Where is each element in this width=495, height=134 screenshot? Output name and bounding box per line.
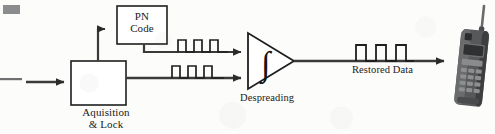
restored-data-waveform [356,45,414,61]
acquisition-label-line-1: Aquisition [61,106,151,118]
edge-fragment-rule [0,78,22,80]
edge-fragment-top [3,5,20,14]
pn-code-label-line-1: PN [118,10,166,22]
despreading-integrator-block [248,33,294,89]
acquisition-label-line-2: & Lock [61,118,151,130]
mobile-handset-icon [454,3,493,107]
acquisition-to-pn-line [98,29,105,61]
figure-canvas: ∫ [0,0,495,134]
pn-code-output-line [144,44,241,52]
despreading-label: Despreading [240,92,294,104]
acquisition-lock-block-label: Aquisition & Lock [61,106,151,131]
acquisition-lock-block [71,61,126,105]
pn-code-block-label: PN Code [118,10,166,35]
pn-code-label-line-2: Code [118,22,166,34]
restored-data-label: Restored Data [352,64,413,76]
received-signal-waveform [172,66,224,78]
pn-chip-waveform [178,40,228,52]
